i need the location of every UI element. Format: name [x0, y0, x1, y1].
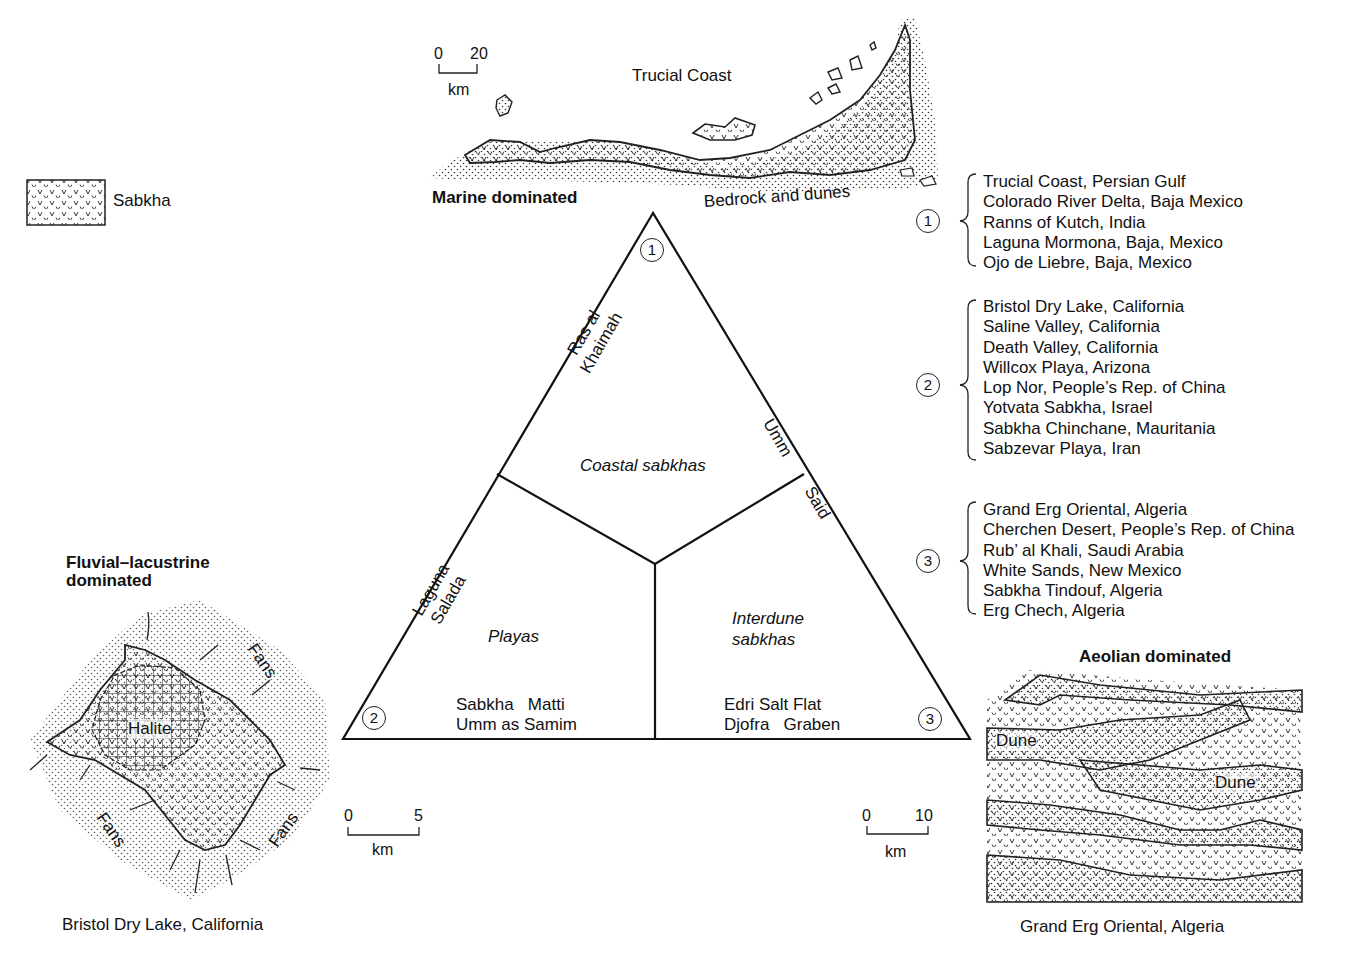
field-interdune-line2: sabkhas [732, 630, 795, 650]
group-3-list: Grand Erg Oriental, Algeria Cherchen Des… [983, 500, 1295, 622]
list-item: Laguna Mormona, Baja, Mexico [983, 233, 1243, 253]
group-3-marker: 3 [916, 549, 940, 573]
dune-label-1: Dune [996, 731, 1037, 751]
sabkha-legend-swatch [27, 180, 105, 225]
interdune-example-1: Edri Salt Flat [724, 695, 821, 715]
dune-label-2: Dune [1215, 773, 1256, 793]
list-item: Grand Erg Oriental, Algeria [983, 500, 1295, 520]
aeolian-scale-unit: km [885, 842, 906, 862]
group-2-marker: 2 [916, 373, 940, 397]
vertex-1-marker: 1 [640, 238, 664, 262]
fluvial-scale-start: 0 [344, 806, 353, 826]
playas-example-2: Umm as Samim [456, 715, 577, 735]
list-item: Cherchen Desert, People’s Rep. of China [983, 520, 1295, 540]
fluvial-heading-line1: Fluvial–lacustrine [66, 553, 210, 573]
list-item: Rub’ al Khali, Saudi Arabia [983, 541, 1295, 561]
field-interdune-line1: Interdune [732, 609, 804, 629]
vertex-3-marker: 3 [918, 707, 942, 731]
fluvial-caption: Bristol Dry Lake, California [62, 915, 263, 935]
fluvial-heading-line2: dominated [66, 571, 152, 591]
vertex-2-marker: 2 [362, 706, 386, 730]
legend-sabkha-label: Sabkha [113, 191, 171, 211]
group-2-list: Bristol Dry Lake, California Saline Vall… [983, 297, 1226, 459]
trucial-coast-title: Trucial Coast [632, 66, 732, 86]
fluvial-scale-unit: km [372, 840, 393, 860]
group-1-list: Trucial Coast, Persian Gulf Colorado Riv… [983, 172, 1243, 273]
trucial-scale-end: 20 [470, 44, 488, 64]
playas-example-1: Sabkha Matti [456, 695, 565, 715]
list-item: Erg Chech, Algeria [983, 601, 1295, 621]
list-item: Yotvata Sabkha, Israel [983, 398, 1226, 418]
list-item: Saline Valley, California [983, 317, 1226, 337]
field-playas: Playas [488, 627, 539, 647]
aeolian-scale-end: 10 [915, 806, 933, 826]
marine-dominated-heading: Marine dominated [432, 188, 577, 208]
bristol-dry-lake-map [30, 600, 330, 900]
aeolian-scale-start: 0 [862, 806, 871, 826]
aeolian-dominated-heading: Aeolian dominated [1079, 647, 1231, 667]
halite-label: Halite [128, 719, 171, 739]
list-item: Lop Nor, People’s Rep. of China [983, 378, 1226, 398]
fluvial-scale-bar [348, 827, 419, 835]
list-item: Death Valley, California [983, 338, 1226, 358]
diagram-graphics [0, 0, 1357, 960]
list-item: Sabkha Tindouf, Algeria [983, 581, 1295, 601]
group-1-marker: 1 [916, 209, 940, 233]
field-coastal-sabkhas: Coastal sabkhas [580, 456, 706, 476]
ternary-triangle [343, 213, 970, 739]
trucial-coast-map [430, 18, 938, 192]
trucial-scale-bar [439, 64, 477, 73]
trucial-scale-unit: km [448, 80, 469, 100]
trucial-scale-start: 0 [434, 44, 443, 64]
aeolian-scale-bar [867, 826, 928, 834]
list-item: Bristol Dry Lake, California [983, 297, 1226, 317]
fluvial-scale-end: 5 [414, 806, 423, 826]
list-item: Colorado River Delta, Baja Mexico [983, 192, 1243, 212]
list-item: Sabkha Chinchane, Mauritania [983, 419, 1226, 439]
list-item: Trucial Coast, Persian Gulf [983, 172, 1243, 192]
list-item: Sabzevar Playa, Iran [983, 439, 1226, 459]
list-item: Ranns of Kutch, India [983, 213, 1243, 233]
group-braces [960, 174, 976, 614]
aeolian-caption: Grand Erg Oriental, Algeria [1020, 917, 1224, 937]
list-item: White Sands, New Mexico [983, 561, 1295, 581]
list-item: Ojo de Liebre, Baja, Mexico [983, 253, 1243, 273]
interdune-example-2: Djofra Graben [724, 715, 840, 735]
list-item: Willcox Playa, Arizona [983, 358, 1226, 378]
